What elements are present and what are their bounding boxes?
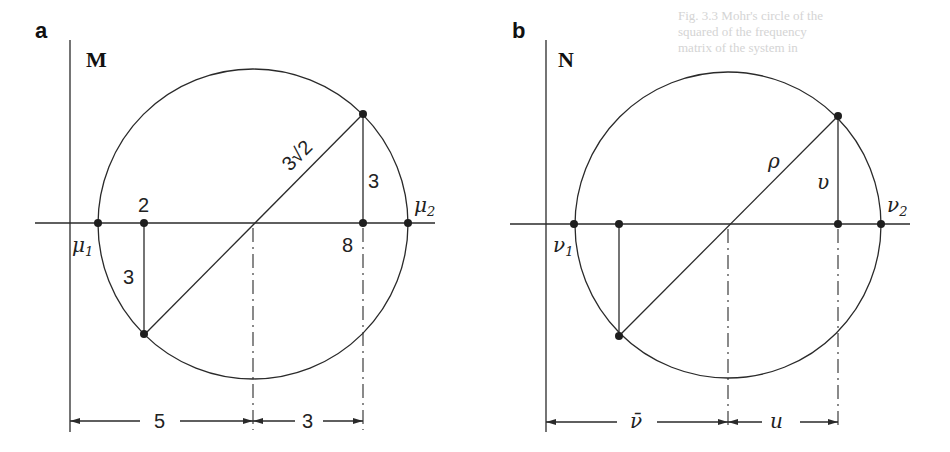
point-upper (834, 112, 842, 120)
point-2 (140, 219, 148, 227)
label-upsilon: υ (817, 170, 829, 194)
label-radius: 3√2 (277, 136, 316, 175)
panel-b: b N ρ υ ν1 ν2 ν̄ u (510, 18, 910, 433)
panel-a: a M 2 8 3 3 3√2 μ1 μ2 5 3 (35, 18, 435, 432)
label-nu2: ν2 (887, 193, 907, 219)
point-lower (140, 330, 148, 338)
mohr-circle-figure: a M 2 8 3 3 3√2 μ1 μ2 5 3 (0, 0, 950, 452)
point-mu2 (404, 219, 412, 227)
dim-label-5: 5 (154, 410, 165, 432)
point-nu1 (570, 220, 578, 228)
label-mu2: μ2 (414, 193, 435, 219)
point-right (834, 220, 842, 228)
label-height-left: 3 (123, 266, 134, 288)
label-mu1: μ1 (72, 233, 93, 259)
point-8 (359, 219, 367, 227)
matrix-label-N: N (558, 47, 574, 72)
label-2: 2 (138, 194, 149, 216)
matrix-label-M: M (86, 47, 107, 72)
dim-label-3: 3 (302, 410, 313, 432)
label-8: 8 (342, 234, 353, 256)
point-lower (615, 332, 623, 340)
point-left (615, 220, 623, 228)
point-nu2 (877, 220, 885, 228)
diameter-line (619, 116, 838, 336)
label-rho: ρ (767, 149, 780, 173)
panel-label-a: a (35, 18, 48, 43)
point-mu1 (94, 219, 102, 227)
panel-label-b: b (512, 18, 525, 43)
label-height-right: 3 (368, 170, 379, 192)
label-nu1: ν1 (553, 233, 573, 259)
dim-label-nu-bar: ν̄ (630, 409, 642, 433)
point-upper (359, 110, 367, 118)
diameter-line (144, 114, 363, 335)
dim-label-u: u (770, 409, 783, 433)
